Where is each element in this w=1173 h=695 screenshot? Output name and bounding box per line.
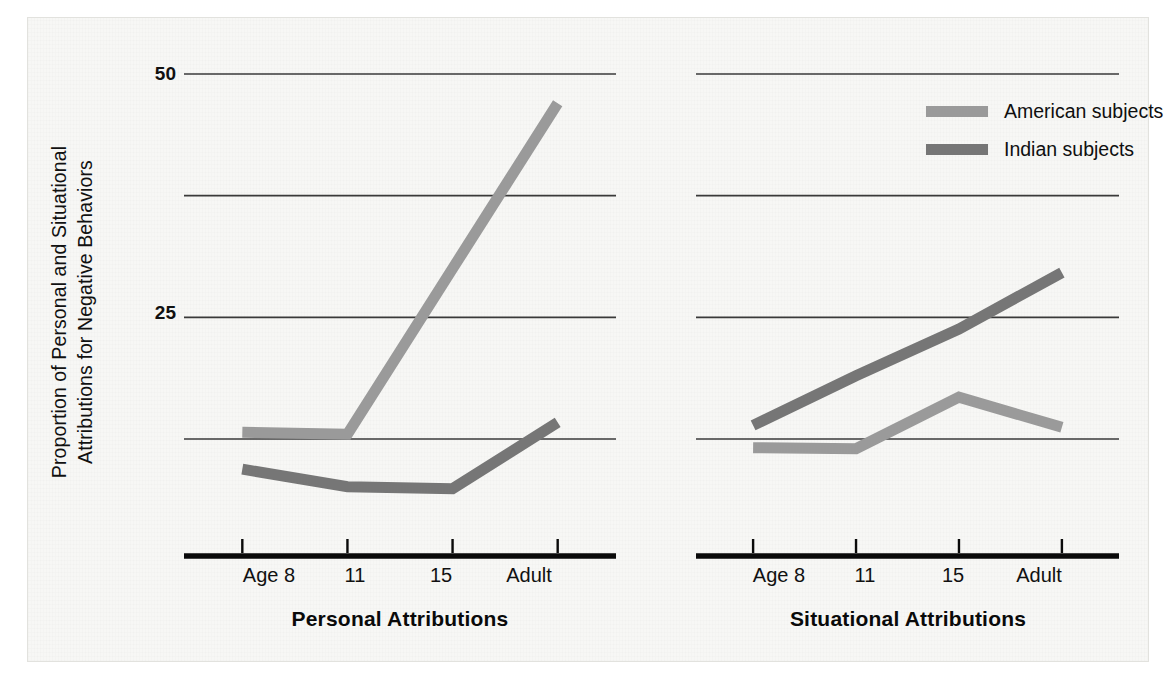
series-line-american (242, 103, 557, 434)
x-tick-label-right-0: Age 8 (753, 564, 805, 587)
x-tick-label-left-0: Age 8 (243, 564, 295, 587)
panel-personal-attributions (184, 74, 616, 556)
x-tick-label-left-1: 11 (345, 564, 366, 587)
y-tick-label-25: 25 (116, 302, 176, 324)
legend-label-american: American subjects (1004, 100, 1163, 123)
figure-frame: Proportion of Personal and Situational A… (27, 17, 1149, 662)
x-tick-label-right-1: 11 (855, 564, 876, 587)
x-tick-label-left-3: Adult (506, 564, 552, 587)
x-tick-label-right-2: 15 (942, 564, 964, 587)
x-tick-label-right-3: Adult (1016, 564, 1062, 587)
y-tick-label-50: 50 (116, 63, 176, 85)
legend-item-american: American subjects (926, 92, 1163, 130)
panel-title-situational-attributions: Situational Attributions (790, 607, 1026, 631)
legend-swatch-indian-icon (926, 144, 988, 155)
legend-swatch-american-icon (926, 106, 988, 117)
legend-item-indian: Indian subjects (926, 130, 1163, 168)
legend-label-indian: Indian subjects (1004, 138, 1134, 161)
figure-page: Proportion of Personal and Situational A… (0, 0, 1173, 695)
chart-legend: American subjects Indian subjects (926, 92, 1163, 168)
panel-title-personal-attributions: Personal Attributions (292, 607, 509, 631)
x-tick-label-left-2: 15 (430, 564, 452, 587)
series-line-indian (753, 273, 1062, 426)
